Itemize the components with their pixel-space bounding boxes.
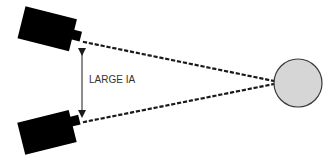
camera-body	[18, 6, 77, 51]
stereo-camera-diagram: LARGE IA	[0, 0, 333, 162]
interaxial-label: LARGE IA	[89, 74, 135, 85]
camera-body	[17, 110, 76, 155]
bottom-sightline	[84, 84, 274, 122]
bottom-camera-icon	[17, 108, 84, 155]
target-sphere	[274, 59, 322, 107]
top-camera-icon	[18, 6, 85, 53]
